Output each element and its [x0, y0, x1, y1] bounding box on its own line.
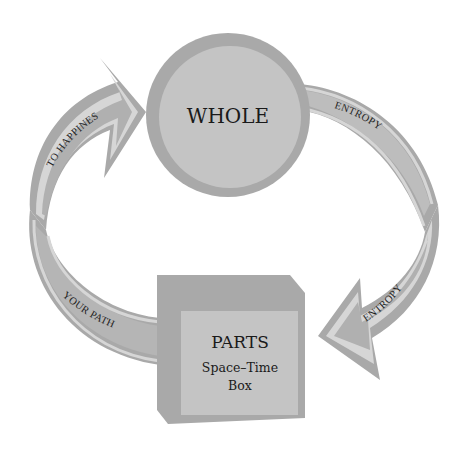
whole-node: WHOLE — [146, 33, 310, 197]
whole-title: WHOLE — [187, 104, 269, 128]
diagram-canvas: ENTROPY ENTROPY YOUR PATH — [0, 0, 463, 452]
entropy-arrow-right: ENTROPY — [318, 205, 439, 380]
happiness-arrow-left: TO HAPPINES — [30, 58, 146, 230]
cycle-diagram: ENTROPY ENTROPY YOUR PATH — [0, 0, 463, 452]
parts-title: PARTS — [211, 332, 269, 352]
entropy-band-top: ENTROPY — [300, 84, 438, 232]
your-path-band: YOUR PATH — [29, 210, 160, 365]
parts-subtitle-line1: Space–Time — [202, 360, 278, 375]
parts-subtitle-line2: Box — [228, 378, 252, 393]
parts-node: PARTS Space–Time Box — [157, 275, 305, 424]
